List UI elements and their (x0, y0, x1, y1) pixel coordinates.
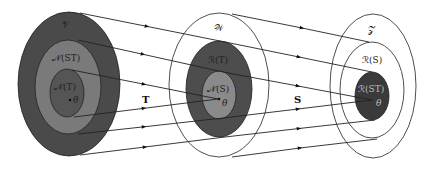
label-theta-w: θ (222, 98, 228, 108)
label-n-st: 𝒩(ST) (52, 53, 80, 63)
label-v: 𝒱 (62, 20, 71, 30)
operator-s-label: S (294, 94, 301, 105)
set-z-range-st (355, 72, 389, 120)
set-v: 𝒱 𝒩(ST) 𝒩(T) θ (18, 12, 120, 156)
label-r-st: ℛ(ST) (358, 84, 384, 94)
composition-diagram: 𝒱 𝒩(ST) 𝒩(T) θ 𝒲 ℛ(T) 𝒩(S) θ 𝒵 ℛ(S) ℛ(ST… (0, 0, 440, 171)
label-theta-v: θ (73, 95, 79, 105)
set-z: 𝒵 ℛ(S) ℛ(ST) θ (330, 14, 416, 158)
label-r-s: ℛ(S) (362, 55, 382, 65)
set-w-nullspace-s (202, 71, 236, 119)
set-w: 𝒲 ℛ(T) 𝒩(S) θ (169, 13, 269, 157)
set-v-nullspace-t (50, 69, 84, 117)
zero-point-v (69, 99, 72, 102)
label-n-t: 𝒩(T) (54, 82, 76, 92)
operator-t-label: T (142, 94, 150, 105)
label-r-t: ℛ(T) (208, 55, 228, 65)
label-n-s: 𝒩(S) (207, 84, 229, 94)
zero-point-w (218, 98, 221, 101)
label-z: 𝒵 (368, 25, 376, 35)
label-theta-z: θ (376, 98, 382, 108)
